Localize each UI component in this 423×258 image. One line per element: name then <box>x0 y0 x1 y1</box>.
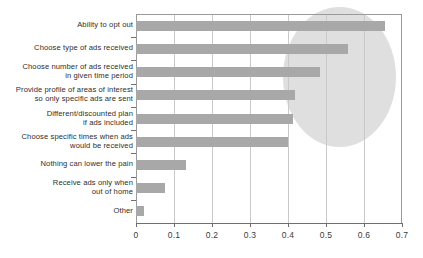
x-axis-tick-label: 0.6 <box>358 230 370 240</box>
bar <box>136 183 165 193</box>
x-axis-tick-label: 0.7 <box>396 230 408 240</box>
y-axis-tick <box>131 153 136 154</box>
bar <box>136 160 186 170</box>
x-axis-tick <box>288 223 289 227</box>
y-axis-tick <box>131 107 136 108</box>
bar <box>136 206 144 216</box>
bar <box>136 21 385 31</box>
x-axis-tick-label: 0.5 <box>320 230 332 240</box>
bar <box>136 44 348 54</box>
category-label: Choose specific times when ads would be … <box>1 132 133 150</box>
x-axis-tick-label: 0 <box>134 230 139 240</box>
category-label: Receive ads only when out of home <box>1 178 133 196</box>
x-axis-tick <box>212 223 213 227</box>
x-axis-tick <box>364 223 365 227</box>
x-axis-tick-label: 0.3 <box>244 230 256 240</box>
y-axis-tick <box>131 200 136 201</box>
bar <box>136 67 320 77</box>
y-axis-tick <box>131 84 136 85</box>
x-axis-tick <box>250 223 251 227</box>
x-axis-tick <box>326 223 327 227</box>
category-label: Nothing can lower the pain <box>1 159 133 168</box>
category-label: Choose number of ads received in given t… <box>1 62 133 80</box>
x-axis-tick-label: 0.2 <box>206 230 218 240</box>
y-axis-tick <box>131 130 136 131</box>
x-axis-tick <box>174 223 175 227</box>
category-label: Ability to opt out <box>1 20 133 29</box>
category-label: Other <box>1 206 133 215</box>
y-axis-tick <box>131 60 136 61</box>
x-axis-tick-label: 0.1 <box>168 230 180 240</box>
category-label: Different/discounted plan if ads include… <box>1 109 133 127</box>
x-axis-tick <box>136 223 137 227</box>
category-label: Provide profile of areas of interest so … <box>1 85 133 103</box>
y-axis-tick <box>131 177 136 178</box>
y-axis-tick <box>131 37 136 38</box>
bar <box>136 114 293 124</box>
x-axis-tick-label: 0.4 <box>282 230 294 240</box>
bar <box>136 137 288 147</box>
x-axis-line <box>136 223 403 224</box>
gridline <box>364 15 365 223</box>
horizontal-bar-chart: Ability to opt outChoose type of ads rec… <box>0 0 423 258</box>
category-label: Choose type of ads received <box>1 43 133 52</box>
bar <box>136 90 295 100</box>
x-axis-tick <box>402 223 403 227</box>
